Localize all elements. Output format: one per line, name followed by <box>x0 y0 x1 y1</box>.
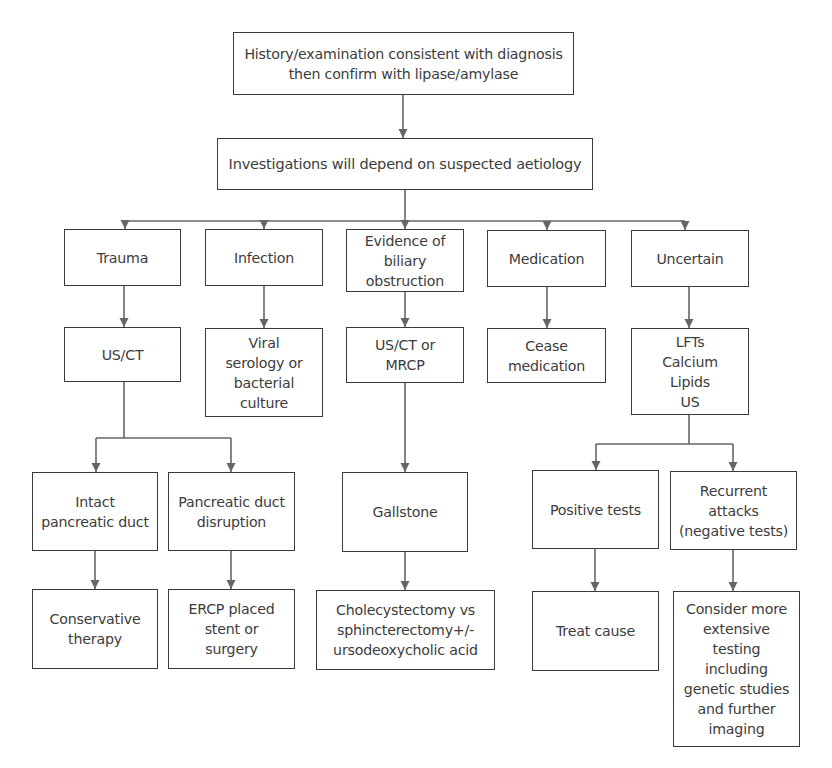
node-us-ct-mrcp: US/CT or MRCP <box>346 327 464 383</box>
node-label: Evidence of biliary obstruction <box>365 231 446 291</box>
node-label: Gallstone <box>372 502 437 522</box>
node-label: Cholecystectomy vs sphincterectomy+/- ur… <box>333 600 478 660</box>
node-label: Consider more extensive testing includin… <box>684 599 789 739</box>
node-cease-medication: Cease medication <box>487 328 606 383</box>
node-label: Investigations will depend on suspected … <box>229 154 582 174</box>
arrowhead-icon <box>401 463 410 472</box>
arrowhead-icon <box>260 220 269 229</box>
node-label: Cease medication <box>508 336 585 376</box>
node-label: Recurrent attacks (negative tests) <box>679 481 788 541</box>
arrowhead-icon <box>91 580 100 589</box>
node-label: US/CT <box>102 345 144 365</box>
arrowhead-icon <box>543 221 552 230</box>
flowchart-canvas: History/examination consistent with diag… <box>0 0 832 768</box>
node-label: History/examination consistent with diag… <box>244 44 562 84</box>
node-label: Positive tests <box>550 500 641 520</box>
arrowhead-icon <box>401 318 410 327</box>
arrowhead-icon <box>120 318 129 327</box>
node-intact-pancreatic-duct: Intact pancreatic duct <box>32 472 158 551</box>
arrowhead-icon <box>591 582 600 591</box>
node-label: ERCP placed stent or surgery <box>188 599 274 659</box>
node-us-ct: US/CT <box>64 327 181 382</box>
arrowhead-icon <box>685 319 694 328</box>
node-label: Treat cause <box>556 621 635 641</box>
node-label: Viral serology or bacterial culture <box>225 333 302 413</box>
arrowhead-icon <box>121 220 130 229</box>
node-medication: Medication <box>487 230 606 287</box>
arrowhead-icon <box>729 462 738 471</box>
arrowhead-icon <box>92 463 101 472</box>
arrowhead-icon <box>592 461 601 470</box>
node-ercp-stent-surgery: ERCP placed stent or surgery <box>168 589 295 669</box>
node-label: Infection <box>234 248 294 268</box>
node-viral-serology: Viral serology or bacterial culture <box>205 328 323 417</box>
node-label: Medication <box>509 249 585 269</box>
node-label: Uncertain <box>656 249 723 269</box>
node-label: LFTs Calcium Lipids US <box>662 332 718 412</box>
node-biliary-obstruction: Evidence of biliary obstruction <box>346 229 464 292</box>
node-label: Trauma <box>97 248 148 268</box>
node-lfts-calcium-lipids-us: LFTs Calcium Lipids US <box>631 328 749 415</box>
node-label: Conservative therapy <box>50 609 141 649</box>
node-infection: Infection <box>205 229 323 286</box>
node-trauma: Trauma <box>64 229 181 286</box>
node-investigations: Investigations will depend on suspected … <box>217 138 593 190</box>
arrowhead-icon <box>543 319 552 328</box>
arrowhead-icon <box>729 582 738 591</box>
arrowhead-icon <box>399 129 408 138</box>
arrowhead-icon <box>401 581 410 590</box>
node-cholecystectomy: Cholecystectomy vs sphincterectomy+/- ur… <box>316 590 495 670</box>
node-gallstone: Gallstone <box>342 472 468 552</box>
node-history-examination: History/examination consistent with diag… <box>233 32 574 95</box>
node-treat-cause: Treat cause <box>532 591 659 671</box>
node-pancreatic-duct-disruption: Pancreatic duct disruption <box>168 472 295 551</box>
node-label: Pancreatic duct disruption <box>178 492 285 532</box>
node-conservative-therapy: Conservative therapy <box>32 589 158 669</box>
node-uncertain: Uncertain <box>631 230 749 287</box>
arrowhead-icon <box>260 319 269 328</box>
arrowhead-icon <box>227 463 236 472</box>
arrowhead-icon <box>681 221 690 230</box>
arrowhead-icon <box>227 580 236 589</box>
node-label: US/CT or MRCP <box>375 335 435 375</box>
node-recurrent-attacks: Recurrent attacks (negative tests) <box>670 471 797 550</box>
arrowhead-icon <box>401 220 410 229</box>
node-consider-extensive-testing: Consider more extensive testing includin… <box>673 591 800 747</box>
node-positive-tests: Positive tests <box>532 470 659 549</box>
node-label: Intact pancreatic duct <box>41 492 149 532</box>
